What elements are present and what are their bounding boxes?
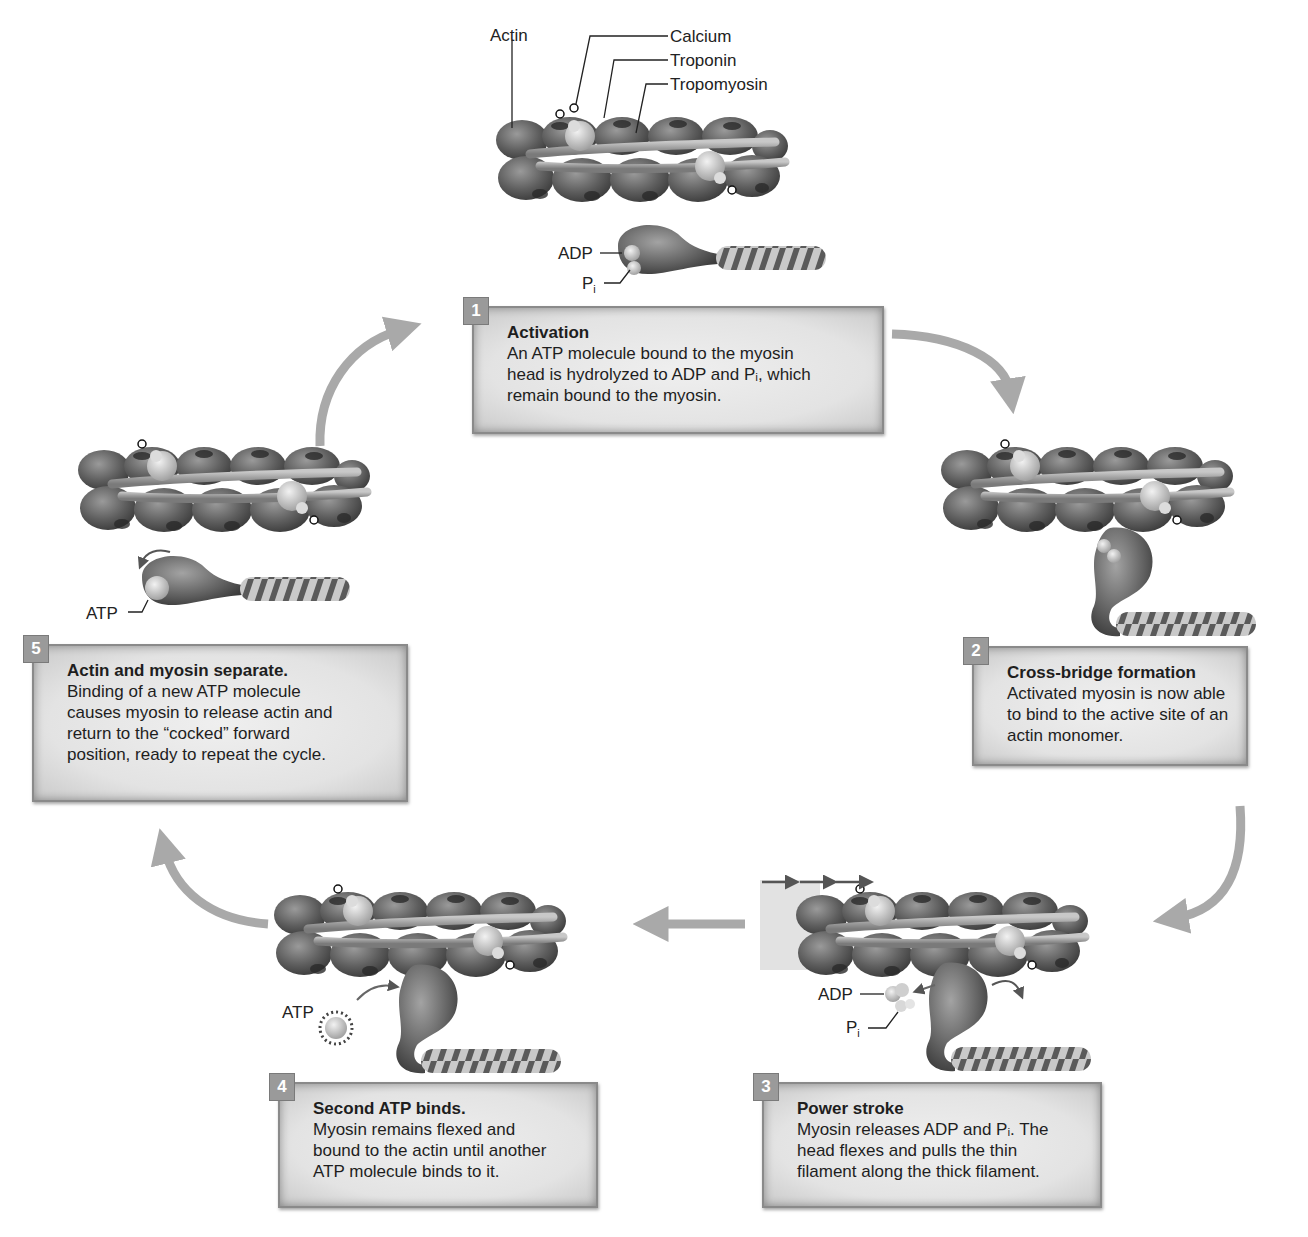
step-text-line: position, ready to repeat the cycle.	[67, 744, 392, 765]
step-text-line: head flexes and pulls the thin	[797, 1140, 1086, 1161]
label-pi-step3: Pi	[846, 1018, 860, 1043]
pi-base: P	[582, 274, 593, 293]
label-atp-step5: ATP	[86, 604, 118, 623]
cross-bridge-cycle-diagram: Actin Calcium Troponin Tropomyosin ADP P…	[0, 0, 1308, 1237]
step-text-line: Myosin remains flexed and	[313, 1119, 582, 1140]
step-number-badge: 5	[23, 635, 49, 663]
pi-base: P	[846, 1018, 857, 1037]
step-2-box: 2 Cross-bridge formation Activated myosi…	[972, 646, 1248, 766]
step-text-line: bound to the actin until another	[313, 1140, 582, 1161]
step-text-line: return to the “cocked” forward	[67, 723, 392, 744]
step-text-line: causes myosin to release actin and	[67, 702, 392, 723]
step1-illustration	[496, 36, 826, 283]
label-adp-step1: ADP	[558, 244, 593, 263]
step-text-line: head is hydrolyzed to ADP and Pᵢ, which	[507, 364, 868, 385]
step-text-line: Myosin releases ADP and Pᵢ. The	[797, 1119, 1086, 1140]
step3-illustration	[760, 880, 1091, 1071]
step-text-line: to bind to the active site of an	[1007, 704, 1232, 725]
pi-subscript: i	[857, 1027, 859, 1039]
step-text-line: remain bound to the myosin.	[507, 385, 868, 406]
label-tropomyosin: Tropomyosin	[670, 75, 768, 94]
pi-subscript: i	[593, 283, 595, 295]
step-text-line: An ATP molecule bound to the myosin	[507, 343, 868, 364]
step-title: Activation	[507, 322, 868, 343]
label-actin: Actin	[490, 26, 528, 45]
step-text-line: filament along the thick filament.	[797, 1161, 1086, 1182]
step-text-line: Binding of a new ATP molecule	[67, 681, 392, 702]
label-calcium: Calcium	[670, 27, 731, 46]
step-title: Cross-bridge formation	[1007, 662, 1232, 683]
step-title: Power stroke	[797, 1098, 1086, 1119]
step-number-badge: 3	[753, 1073, 779, 1101]
step5-illustration	[78, 440, 370, 612]
label-troponin: Troponin	[670, 51, 736, 70]
step-text-line: ATP molecule binds to it.	[313, 1161, 582, 1182]
step-1-box: 1 Activation An ATP molecule bound to th…	[472, 306, 884, 434]
label-adp-step3: ADP	[818, 985, 853, 1004]
step4-illustration	[274, 885, 566, 1073]
step-number-badge: 1	[463, 297, 489, 325]
diagram-graphics	[0, 0, 1308, 1237]
step-title: Actin and myosin separate.	[67, 660, 392, 681]
step2-illustration	[941, 440, 1256, 636]
label-atp-step4: ATP	[282, 1003, 314, 1022]
step-5-box: 5 Actin and myosin separate. Binding of …	[32, 644, 408, 802]
label-pi-step1: Pi	[582, 274, 596, 299]
step-text-line: Activated myosin is now able	[1007, 683, 1232, 704]
step-text-line: actin monomer.	[1007, 725, 1232, 746]
step-4-box: 4 Second ATP binds. Myosin remains flexe…	[278, 1082, 598, 1208]
step-3-box: 3 Power stroke Myosin releases ADP and P…	[762, 1082, 1102, 1208]
step-number-badge: 4	[269, 1073, 295, 1101]
step-number-badge: 2	[963, 637, 989, 665]
step-title: Second ATP binds.	[313, 1098, 582, 1119]
